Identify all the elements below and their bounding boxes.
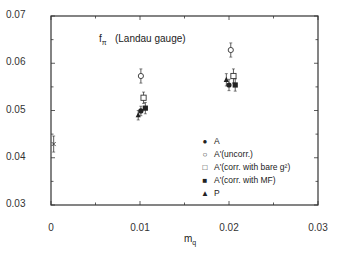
y-tick-label: 0.06 xyxy=(6,56,40,67)
y-tick-label: 0.07 xyxy=(6,9,40,20)
x-tick-label: 0.01 xyxy=(120,222,160,233)
open-circle-icon: ○ xyxy=(196,148,214,161)
data-point-filled-square xyxy=(143,106,148,111)
y-tick-label: 0.04 xyxy=(6,151,40,162)
y-tick-label: 0.05 xyxy=(6,104,40,115)
legend-item: ○A'(uncorr.) xyxy=(196,148,290,161)
x-tick-label: 0 xyxy=(31,222,71,233)
data-point-open-square xyxy=(141,95,146,100)
legend: ●A ○A'(uncorr.) □A'(corr. with bare g²) … xyxy=(196,135,290,200)
data-point-filled-circle xyxy=(138,108,143,113)
open-square-icon: □ xyxy=(196,161,214,174)
data-point-open-circle xyxy=(228,47,233,52)
y-tick-label: 0.03 xyxy=(6,198,40,209)
data-point-open-circle xyxy=(138,73,143,78)
x-tick-label: 0.03 xyxy=(298,222,337,233)
x-tick-label: 0.02 xyxy=(209,222,249,233)
data-point-filled-square xyxy=(233,82,238,87)
chart-title: fπ (Landau gauge) xyxy=(99,33,186,46)
legend-item: ■A'(corr. with MF) xyxy=(196,174,290,187)
legend-item: ▲P xyxy=(196,187,290,200)
legend-item: ●A xyxy=(196,135,290,148)
data-point-filled-circle xyxy=(226,82,231,87)
filled-triangle-icon: ▲ xyxy=(196,187,214,200)
filled-circle-icon: ● xyxy=(196,135,214,148)
data-point-open-square xyxy=(231,73,236,78)
legend-item: □A'(corr. with bare g²) xyxy=(196,161,290,174)
x-axis-title: mq xyxy=(184,233,196,246)
filled-square-icon: ■ xyxy=(196,174,214,187)
